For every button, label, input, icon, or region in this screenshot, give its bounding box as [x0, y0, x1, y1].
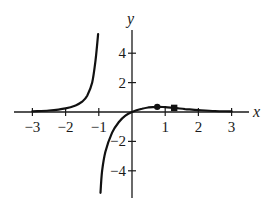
y-tick-label: 2 [119, 75, 127, 91]
x-tick-label: −3 [24, 119, 40, 135]
y-tick-label: 4 [119, 45, 127, 61]
x-axis-label: x [252, 103, 260, 120]
y-tick-label: −4 [110, 163, 126, 179]
x-tick-label: 2 [195, 119, 203, 135]
x-tick-label: −2 [58, 119, 74, 135]
left-branch-curve [32, 34, 98, 111]
circle-marker [154, 104, 160, 110]
square-marker [171, 105, 177, 111]
x-tick-label: 3 [228, 119, 236, 135]
axes: −3−2−1123 42−2−4 x y [14, 10, 260, 198]
x-tick-label: 1 [161, 119, 169, 135]
function-plot: −3−2−1123 42−2−4 x y [0, 0, 280, 199]
y-tick-label: −2 [110, 133, 126, 149]
y-axis-label: y [125, 10, 135, 28]
x-tick-label: −1 [91, 119, 107, 135]
